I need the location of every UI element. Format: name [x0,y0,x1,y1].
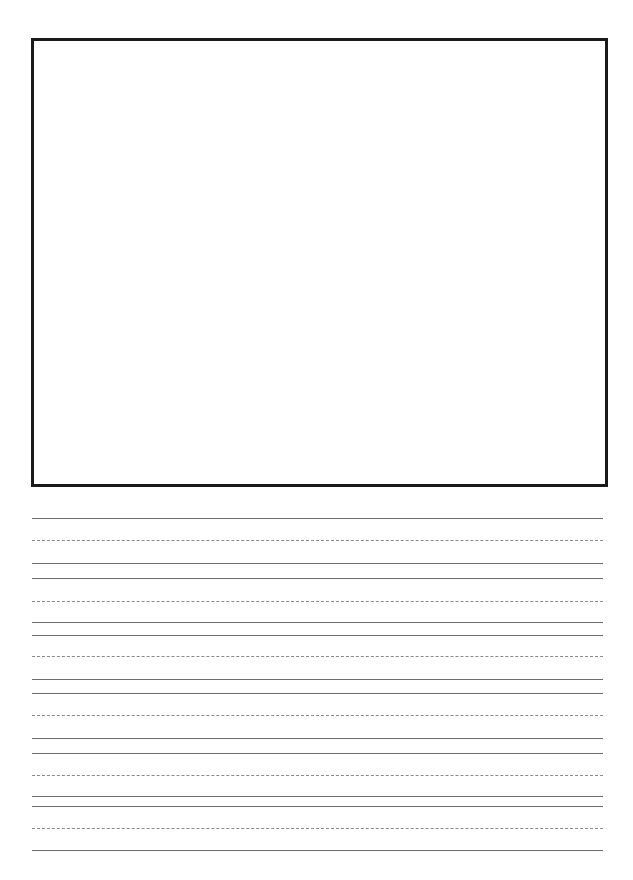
rule-line-base-row-3 [32,679,603,680]
rule-line-top-row-5 [32,753,603,754]
rule-line-top-row-3 [32,635,603,636]
rule-line-mid-row-4 [32,715,603,716]
rule-line-base-row-5 [32,796,603,797]
rule-line-mid-row-6 [32,828,603,829]
rule-line-mid-row-3 [32,656,603,657]
rule-line-top-row-2 [32,578,603,579]
rule-line-base-row-6 [32,850,603,851]
rule-line-mid-row-2 [32,601,603,602]
rule-line-top-row-4 [32,693,603,694]
rule-line-top-row-6 [32,806,603,807]
rule-line-base-row-2 [32,622,603,623]
drawing-box[interactable] [31,38,608,487]
rule-line-mid-row-5 [32,775,603,776]
worksheet-page [0,0,633,880]
rule-line-base-row-1 [32,563,603,564]
rule-line-mid-row-1 [32,540,603,541]
rule-line-base-row-4 [32,738,603,739]
rule-line-top-row-1 [32,518,603,519]
